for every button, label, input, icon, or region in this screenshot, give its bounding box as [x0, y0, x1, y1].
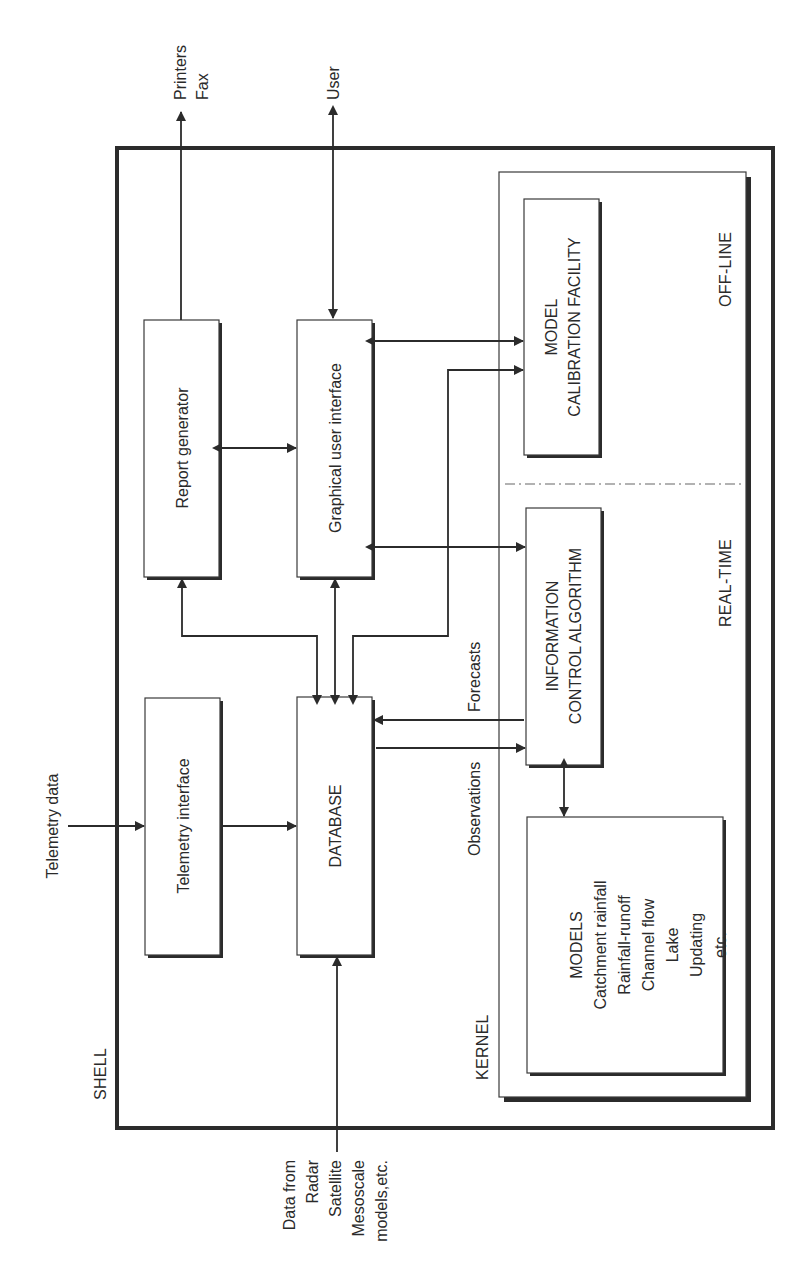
- calibration-label-line1: MODEL: [543, 298, 560, 355]
- database-label: DATABASE: [327, 785, 344, 868]
- telemetry-data-label: Telemetry data: [44, 773, 61, 878]
- models-line-1: Catchment rainfall: [592, 881, 609, 1010]
- observations-label: Observations: [466, 762, 483, 856]
- shell-label: SHELL: [92, 1048, 109, 1100]
- gui-box: Graphical user interface: [297, 320, 375, 580]
- calibration-box: MODEL CALIBRATION FACILITY: [524, 199, 602, 458]
- models-line-2: Rainfall-runoff: [616, 895, 633, 995]
- realtime-label: REAL-TIME: [717, 539, 734, 627]
- gui-label: Graphical user interface: [327, 363, 344, 533]
- data-from-line-1: Radar: [304, 1159, 321, 1203]
- report-generator-box: Report generator: [144, 320, 222, 580]
- data-from-line-2: Satellite: [327, 1160, 344, 1217]
- models-box: MODELS Catchment rainfall Rainfall-runof…: [527, 817, 729, 1076]
- report-generator-label: Report generator: [174, 387, 191, 509]
- forecasts-label: Forecasts: [466, 642, 483, 712]
- arrow-db-calibration: [353, 370, 523, 696]
- data-from-line-0: Data from: [281, 1160, 298, 1230]
- printers-label: Printers: [172, 45, 189, 100]
- user-label: User: [325, 66, 342, 100]
- data-from-line-4: models,etc.: [373, 1160, 390, 1242]
- calibration-label-line2: CALIBRATION FACILITY: [566, 237, 583, 417]
- info-control-box: INFORMATION CONTROL ALGORITHM: [526, 508, 604, 768]
- models-line-6: etc.: [712, 932, 729, 958]
- models-line-0: MODELS: [568, 911, 585, 979]
- models-line-5: Updating: [688, 913, 705, 977]
- kernel-label: KERNEL: [474, 1014, 491, 1080]
- models-line-4: Lake: [664, 928, 681, 963]
- info-control-label-line2: CONTROL ALGORITHM: [567, 548, 584, 724]
- telemetry-interface-box: Telemetry interface: [145, 698, 223, 958]
- telemetry-interface-label: Telemetry interface: [175, 758, 192, 893]
- flood-forecasting-system-diagram: SHELL KERNEL OFF-LINE REAL-TIME Report g…: [0, 0, 808, 1272]
- arrow-db-report: [182, 579, 317, 696]
- database-box: DATABASE: [297, 697, 375, 958]
- models-line-3: Channel flow: [640, 898, 657, 991]
- fax-label: Fax: [194, 73, 211, 100]
- data-from-line-3: Mesoscale: [350, 1160, 367, 1237]
- offline-label: OFF-LINE: [717, 232, 734, 307]
- info-control-label-line1: INFORMATION: [544, 581, 561, 692]
